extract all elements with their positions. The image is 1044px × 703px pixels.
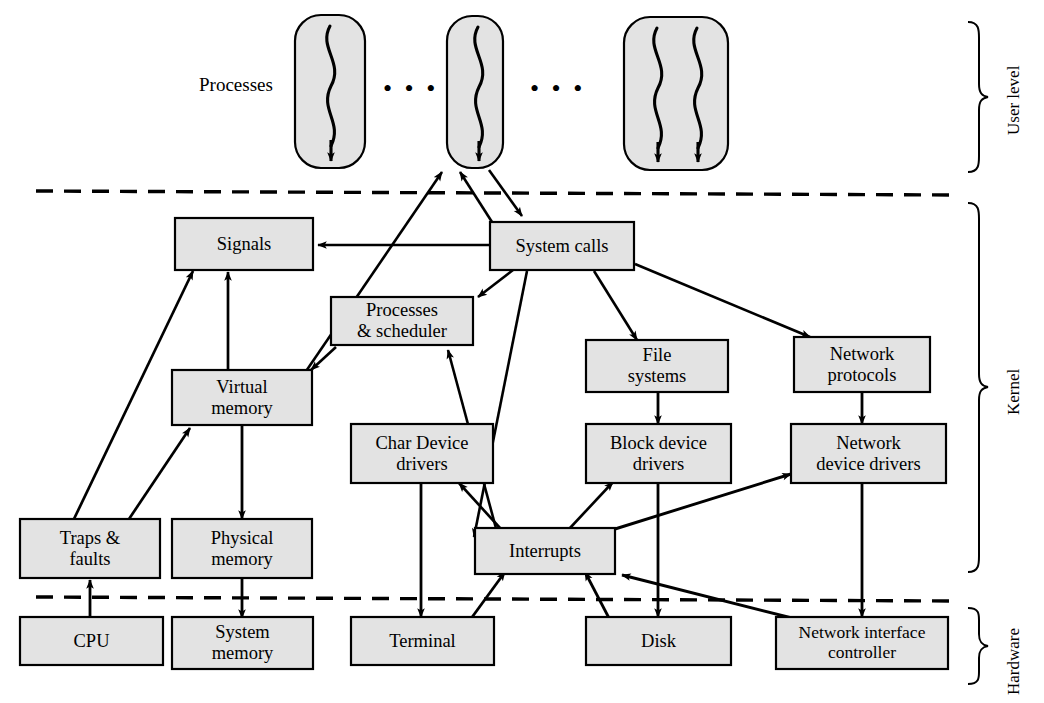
box-network-drivers: [791, 424, 946, 483]
divider-user-kernel: [36, 191, 958, 195]
box-terminal: [351, 617, 494, 665]
edge-virtualmemory-to-process2: [300, 172, 442, 380]
divider-kernel-hardware: [36, 597, 958, 601]
brace-user-level: [968, 22, 988, 172]
box-block-drivers: [586, 424, 731, 483]
processes-label: Processes: [199, 74, 273, 96]
box-cpu: [20, 617, 163, 665]
box-processes-sched: [331, 297, 473, 345]
side-label-user-level: User level: [1004, 66, 1024, 135]
diagram-canvas: Processes • • • • • • Signals System cal…: [0, 0, 1044, 703]
box-disk: [586, 617, 731, 665]
process-box-2: [447, 16, 503, 168]
braces: [968, 22, 988, 684]
edge-traps-to-virtualmemory: [127, 428, 190, 522]
box-physical-memory: [172, 519, 312, 578]
diagram-vector-layer: [0, 0, 1044, 703]
box-interrupts: [475, 528, 615, 574]
edge-interrupts-to-blockdrivers: [570, 482, 613, 528]
box-file-systems: [586, 340, 728, 392]
edge-syscalls-to-virtualmemory: [474, 271, 527, 537]
side-label-hardware: Hardware: [1004, 628, 1024, 695]
ellipsis-2: • • •: [530, 74, 585, 104]
side-label-kernel: Kernel: [1004, 369, 1024, 415]
edge-syscalls-to-netproto: [635, 264, 810, 337]
box-network-protocols: [794, 337, 930, 392]
box-signals: [175, 218, 313, 270]
process-box-3: [624, 17, 728, 170]
box-char-drivers: [351, 424, 493, 483]
box-system-calls: [490, 222, 634, 270]
edge-nic-to-interrupts: [622, 575, 800, 620]
edge-syscalls-to-filesystems: [594, 271, 637, 340]
process-box-1: [295, 15, 365, 168]
edge-terminal-to-interrupts: [470, 572, 505, 620]
edge-syscalls-to-procsched: [478, 270, 513, 297]
edge-disk-to-interrupts: [585, 572, 610, 620]
brace-hardware: [968, 608, 988, 684]
brace-kernel: [968, 203, 988, 572]
edge-interrupts-to-chardrivers: [459, 483, 500, 528]
box-system-memory: [172, 617, 313, 669]
box-nic: [776, 617, 948, 669]
box-virtual-memory: [172, 370, 312, 425]
box-traps-faults: [20, 519, 160, 578]
ellipsis-1: • • •: [383, 74, 438, 104]
edge-syscalls-to-process2: [460, 172, 492, 222]
